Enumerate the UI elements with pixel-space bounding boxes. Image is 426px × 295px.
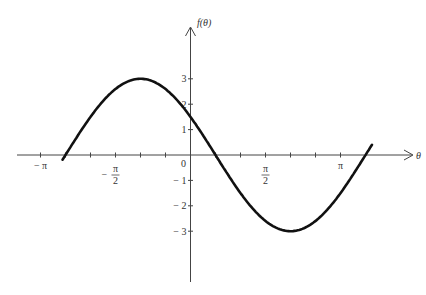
tick-label: − 3 xyxy=(173,226,186,237)
tick-label: − 2 xyxy=(173,200,186,211)
x-axis-label: θ xyxy=(416,150,421,161)
tick-label: 1 xyxy=(182,124,187,135)
tick-label: 2 xyxy=(113,175,118,186)
tick-label: 3 xyxy=(182,73,187,84)
tick-label: − π xyxy=(34,160,47,171)
tick-label: π xyxy=(113,163,118,174)
function-plot: − π−π2π2π321− 1− 2− 3 θ f(θ) 0 xyxy=(0,0,426,295)
y-axis-label: f(θ) xyxy=(197,17,212,29)
tick-label: π xyxy=(263,163,268,174)
tick-label: − 1 xyxy=(173,175,186,186)
tick-label: 2 xyxy=(263,175,268,186)
origin-label: 0 xyxy=(181,158,186,169)
tick-label: π xyxy=(338,160,343,171)
tick-label: − xyxy=(101,169,107,180)
